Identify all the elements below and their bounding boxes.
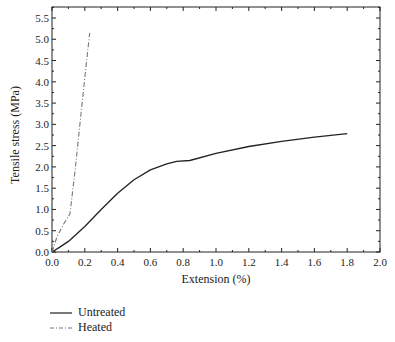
- y-tick-label: 5.0: [35, 33, 49, 45]
- x-tick-label: 1.6: [308, 256, 322, 268]
- plot-frame: [52, 7, 380, 252]
- x-tick-label: 0.8: [176, 256, 190, 268]
- legend: Untreated Heated: [50, 305, 125, 335]
- y-tick-label: 0.5: [35, 225, 49, 237]
- legend-item-untreated: Untreated: [50, 305, 125, 320]
- x-tick-label: 0.6: [144, 256, 158, 268]
- x-tick-label: 2.0: [373, 256, 387, 268]
- y-tick-label: 4.5: [35, 55, 49, 67]
- x-tick-label: 0.2: [78, 256, 92, 268]
- y-tick-label: 3.0: [35, 118, 49, 130]
- y-tick-label: 2.5: [35, 140, 49, 152]
- dash-dot-line-icon: [50, 324, 72, 332]
- solid-line-icon: [50, 309, 72, 317]
- legend-label: Heated: [78, 320, 112, 335]
- y-tick-label: 1.5: [35, 182, 49, 194]
- y-tick-label: 4.0: [35, 76, 49, 88]
- y-tick-label: 0.0: [35, 246, 49, 258]
- x-tick-label: 0.4: [111, 256, 125, 268]
- x-tick-label: 1.0: [209, 256, 223, 268]
- y-tick-label: 5.5: [35, 12, 49, 24]
- y-tick-label: 1.0: [35, 203, 49, 215]
- x-axis-title: Extension (%): [182, 272, 251, 286]
- y-axis-title: Tensile stress (MPa): [8, 86, 22, 184]
- chart-area: 0.00.20.40.60.81.01.21.41.61.82.0 0.00.5…: [0, 0, 395, 300]
- y-tick-label: 2.0: [35, 161, 49, 173]
- series-lines: [52, 33, 347, 252]
- y-tick-label: 3.5: [35, 97, 49, 109]
- x-tick-label: 1.2: [242, 256, 256, 268]
- legend-label: Untreated: [78, 305, 125, 320]
- series-untreated-line: [52, 134, 347, 252]
- x-tick-label: 1.4: [275, 256, 289, 268]
- x-tick-label: 1.8: [340, 256, 354, 268]
- y-axis-ticks: 0.00.51.01.52.02.53.03.54.04.55.05.5: [35, 7, 380, 258]
- series-heated-line: [52, 33, 90, 252]
- legend-item-heated: Heated: [50, 320, 125, 335]
- x-axis-ticks: 0.00.20.40.60.81.01.21.41.61.82.0: [45, 7, 387, 268]
